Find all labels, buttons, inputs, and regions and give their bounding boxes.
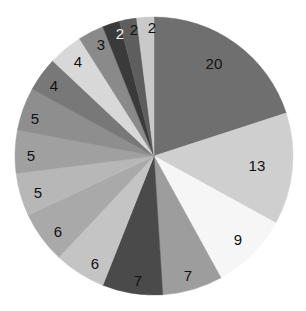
pie-slice-group [15, 17, 293, 295]
pie-chart: 201397766555443222 [0, 0, 306, 311]
pie-chart-svg [0, 0, 306, 311]
